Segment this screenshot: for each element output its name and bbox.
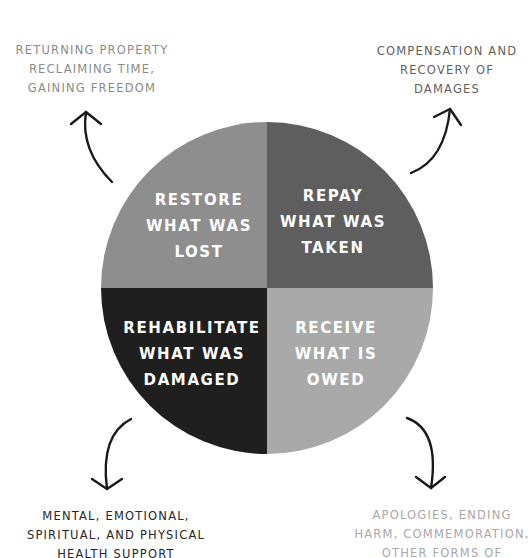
outer-label-receive: APOLOGIES, ENDING HARM, COMMEMORATION, O… [354, 506, 529, 558]
arrow-up-right-icon [411, 109, 461, 173]
outer-label-restore: RETURNING PROPERTY RECLAIMING TIME, GAIN… [16, 41, 169, 98]
label-line: WHAT WAS [146, 213, 252, 239]
label-line: OTHER FORMS OF [354, 544, 529, 558]
circle-quadrants [101, 122, 433, 454]
label-line: RECOVERY OF [377, 61, 518, 80]
quadrant-label-rehabilitate: REHABILITATE WHAT WAS DAMAGED [123, 315, 260, 393]
label-line: TAKEN [280, 235, 386, 261]
label-line: GAINING FREEDOM [16, 79, 169, 98]
label-line: DAMAGES [377, 80, 518, 99]
label-line: OWED [295, 367, 378, 393]
arrow-down-left-icon [92, 419, 131, 489]
label-line: WHAT WAS [280, 209, 386, 235]
outer-label-rehabilitate: MENTAL, EMOTIONAL, SPIRITUAL, AND PHYSIC… [27, 507, 205, 558]
label-line: RECLAIMING TIME, [16, 60, 169, 79]
label-line: RETURNING PROPERTY [16, 41, 169, 60]
label-line: WHAT IS [295, 341, 378, 367]
label-line: APOLOGIES, ENDING [354, 506, 529, 525]
label-line: RECEIVE [295, 315, 378, 341]
arrow-up-left-icon [71, 112, 112, 182]
label-line: RESTORE [146, 187, 252, 213]
arrow-down-right-icon [407, 418, 445, 488]
label-line: LOST [146, 239, 252, 265]
label-line: HEALTH SUPPORT [27, 545, 205, 558]
label-line: SPIRITUAL, AND PHYSICAL [27, 526, 205, 545]
label-line: MENTAL, EMOTIONAL, [27, 507, 205, 526]
outer-label-repay: COMPENSATION AND RECOVERY OF DAMAGES [377, 42, 518, 99]
label-line: WHAT WAS [123, 341, 260, 367]
label-line: HARM, COMMEMORATION, [354, 525, 529, 544]
reparations-diagram: RESTORE WHAT WAS LOST REPAY WHAT WAS TAK… [0, 0, 532, 558]
label-line: REPAY [280, 183, 386, 209]
label-line: REHABILITATE [123, 315, 260, 341]
quadrant-label-restore: RESTORE WHAT WAS LOST [146, 187, 252, 265]
quadrant-label-repay: REPAY WHAT WAS TAKEN [280, 183, 386, 261]
label-line: DAMAGED [123, 367, 260, 393]
quadrant-label-receive: RECEIVE WHAT IS OWED [295, 315, 378, 393]
label-line: COMPENSATION AND [377, 42, 518, 61]
